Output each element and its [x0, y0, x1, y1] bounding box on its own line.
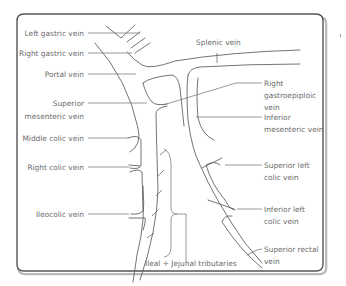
- label-splenic-vein: Splenic vein: [196, 38, 241, 47]
- portal-venous-diagram: Left gastric vein Right gastric vein Por…: [0, 0, 346, 286]
- diagram-stage: Left gastric vein Right gastric vein Por…: [0, 0, 346, 286]
- label-ileal-jejunal-tributaries: Ileal + Jejunal tributaries: [145, 259, 237, 268]
- label-middle-colic-vein: Middle colic vein: [22, 134, 84, 143]
- label-portal-vein: Portal vein: [45, 70, 85, 79]
- label-right-colic-vein: Right colic vein: [27, 163, 84, 172]
- label-right-gastric-vein: Right gastric vein: [19, 49, 84, 58]
- stray-mark: [340, 34, 341, 37]
- labels-bottom: Ileal + Jejunal tributaries: [145, 259, 237, 268]
- label-ileocolic-vein: Ileocolic vein: [36, 210, 84, 219]
- label-left-gastric-vein: Left gastric vein: [25, 29, 85, 38]
